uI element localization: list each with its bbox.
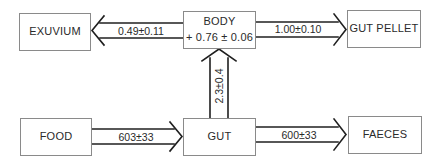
node-gut: GUT (183, 118, 256, 156)
node-gut-pellet: GUT PELLET (347, 10, 421, 48)
node-gut-pellet-label: GUT PELLET (349, 22, 418, 36)
node-gut-label: GUT (208, 130, 232, 144)
node-food-label: FOOD (40, 130, 73, 144)
flow-label-body-to-gut-pellet: 1.00±0.10 (275, 23, 322, 35)
node-faeces: FAECES (348, 116, 422, 154)
flow-label-gut-to-body: 2.3±0.4 (213, 69, 225, 104)
node-exuvium-label: EXUVIUM (29, 25, 81, 39)
flow-label-gut-to-faeces: 600±33 (282, 129, 317, 141)
node-food: FOOD (20, 118, 92, 156)
flow-diagram: EXUVIUM BODY + 0.76 ± 0.06 GUT PELLET FO… (0, 0, 439, 163)
node-faeces-label: FAECES (363, 128, 408, 142)
node-body-sublabel: + 0.76 ± 0.06 (186, 31, 253, 45)
node-exuvium: EXUVIUM (19, 13, 91, 51)
flow-label-body-to-exuvium: 0.49±0.11 (118, 25, 164, 37)
flow-label-food-to-gut: 603±33 (119, 131, 154, 143)
node-body-label: BODY (204, 15, 236, 29)
node-body: BODY + 0.76 ± 0.06 (183, 11, 256, 49)
